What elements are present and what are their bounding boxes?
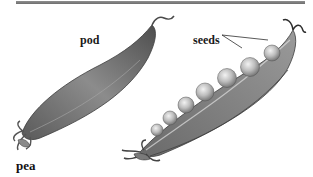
seed <box>151 124 163 136</box>
figure-caption: pea <box>16 158 36 174</box>
seed <box>264 45 280 61</box>
pod-label: pod <box>80 33 99 48</box>
seeds-label: seeds <box>193 33 220 48</box>
seed <box>178 97 194 113</box>
seed <box>196 83 214 101</box>
seed <box>218 69 237 88</box>
pea-illustration <box>0 0 313 177</box>
seed <box>163 111 177 125</box>
seed <box>241 58 260 77</box>
